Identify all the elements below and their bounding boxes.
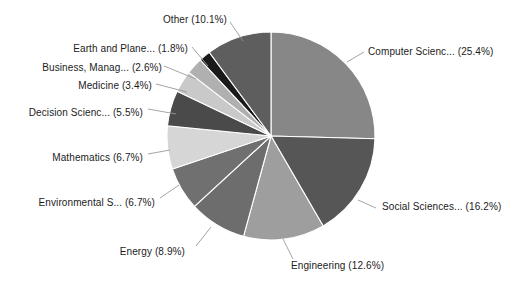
slice-label-earth-planetary: Earth and Plane... (1.8%) [73, 43, 188, 55]
leader-line-energy [196, 227, 211, 246]
slice-label-social-sciences: Social Sciences... (16.2%) [382, 201, 501, 213]
slice-label-engineering: Engineering (12.6%) [291, 260, 384, 272]
slice-label-energy: Energy (8.9%) [120, 246, 185, 258]
pie-slices-group [167, 32, 375, 240]
slice-label-decision-sciences: Decision Scienc... (5.5%) [29, 107, 143, 119]
leader-line-environmental [160, 185, 179, 198]
pie-chart-figure: Computer Scienc... (25.4%) Social Scienc… [0, 0, 526, 289]
slice-label-mathematics: Mathematics (6.7%) [52, 152, 143, 164]
leader-line-social-sciences [358, 200, 376, 208]
slice-label-other: Other (10.1%) [163, 14, 227, 26]
pie-slice [271, 32, 375, 139]
slice-label-medicine: Medicine (3.4%) [78, 80, 152, 92]
leader-line-computer-science [347, 52, 364, 62]
leader-line-mathematics [148, 150, 170, 154]
slice-label-business: Business, Manag... (2.6%) [42, 62, 162, 74]
leader-line-engineering [283, 239, 293, 259]
slice-label-environmental: Environmental S... (6.7%) [39, 197, 155, 209]
slice-label-computer-science: Computer Scienc... (25.4%) [368, 46, 493, 58]
